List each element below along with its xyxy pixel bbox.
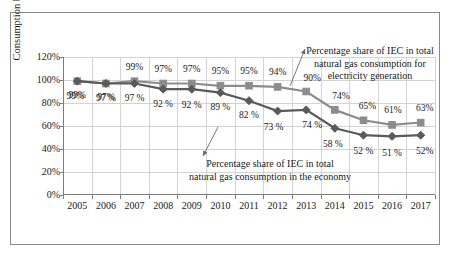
leader-arrow-electricity (290, 49, 305, 86)
annotation-leader-arrows (0, 0, 450, 261)
chart-screenshot: Consumption by the IEC (in %) 0%20%40%60… (0, 0, 450, 261)
leader-arrow-economy (203, 127, 218, 156)
